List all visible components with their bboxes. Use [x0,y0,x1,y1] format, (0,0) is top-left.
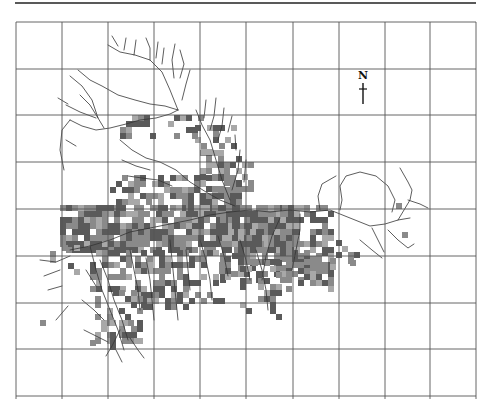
north-arrow: N [355,69,371,107]
river-basin-map [0,0,491,412]
shaded-cells [40,115,408,350]
north-label: N [355,69,371,82]
north-arrow-icon [355,82,371,104]
